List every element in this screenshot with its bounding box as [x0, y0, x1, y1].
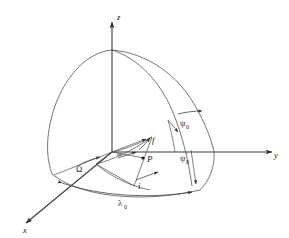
true-anomaly-label: f — [152, 135, 156, 145]
x-axis — [26, 152, 112, 223]
sphere-arc-left — [48, 50, 112, 174]
y-axis-label: y — [273, 150, 278, 160]
sphere-arc-right-upper — [112, 50, 214, 152]
z-axis-label: z — [116, 12, 121, 22]
x-axis-line — [26, 152, 112, 223]
orbit-plane-to-horizon — [96, 164, 134, 186]
inclination-angle-arc — [136, 172, 158, 180]
point-p-marker — [141, 156, 144, 159]
psi0-prime-reference-line — [168, 120, 175, 152]
lambda0-subscript: 0 — [124, 204, 127, 210]
psi0-prime-label-group: ψ 0 ′ — [180, 151, 189, 165]
sphere-arc-right-lower — [200, 152, 214, 190]
psi0-prime-subscript: 0 — [186, 159, 189, 165]
sphere-arc-bottom — [52, 174, 200, 197]
figure-root: z y x Ω ω P f i ψ 0 ψ 0 ′ λ 0 — [0, 0, 289, 238]
x-axis-label: x — [22, 225, 27, 235]
psi0-label-group: ψ 0 — [180, 118, 189, 130]
omega-capital-label: Ω — [76, 164, 82, 174]
orbit-plane-left-edge — [96, 152, 112, 164]
psi0-subscript: 0 — [186, 124, 189, 130]
lambda0-label-group: λ 0 — [118, 198, 127, 210]
orbital-elements-diagram: z y x Ω ω P f i ψ 0 ψ 0 ′ λ 0 — [0, 0, 289, 238]
inclination-label: i — [138, 181, 141, 191]
point-p-label: P — [146, 154, 153, 164]
lambda0-label: λ — [118, 198, 123, 208]
omega-small-label: ω — [117, 150, 122, 158]
node-lower-plane-edge — [96, 164, 150, 190]
psi0-prime-arrow — [191, 150, 196, 184]
